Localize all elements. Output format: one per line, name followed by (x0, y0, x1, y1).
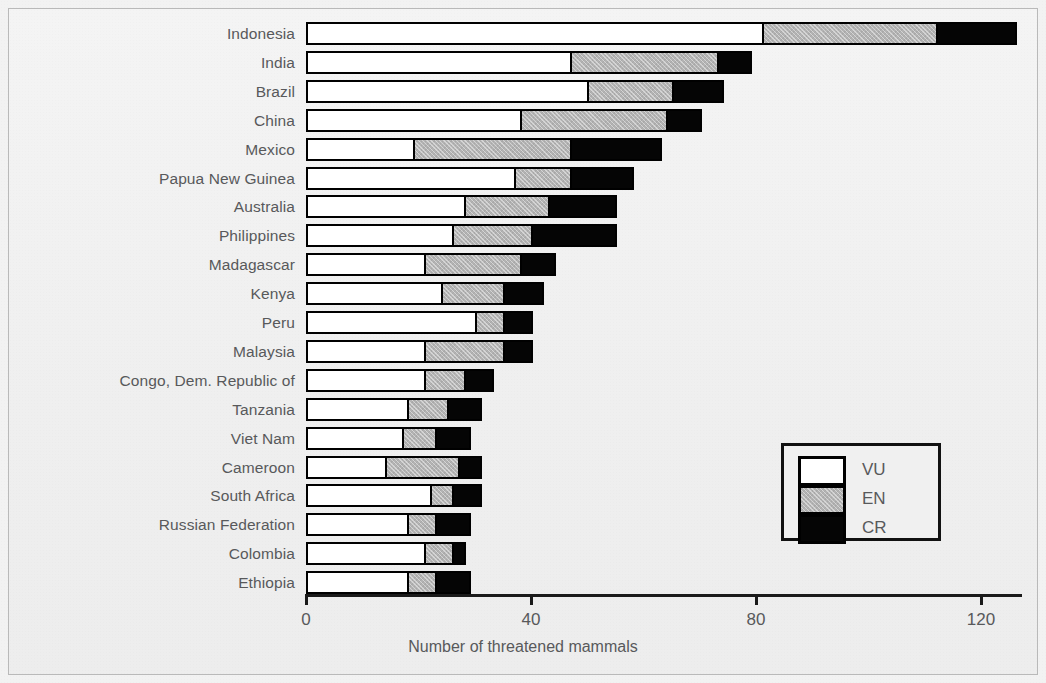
bar-row (0, 51, 1046, 74)
bar-segment-en (464, 195, 550, 218)
bar-segment-cr (503, 282, 544, 305)
bar-segment-vu (306, 80, 589, 103)
bar-row (0, 369, 1046, 392)
bar-segment-cr (570, 167, 634, 190)
bar-row (0, 340, 1046, 363)
bar-segment-cr (936, 22, 1017, 45)
bar-segment-vu (306, 571, 409, 594)
bar-segment-en (407, 571, 437, 594)
bar-segment-vu (306, 109, 522, 132)
bar-segment-en (424, 340, 505, 363)
x-axis-title: Number of threatened mammals (0, 639, 1046, 655)
bar-segment-en (452, 224, 533, 247)
bar-segment-en (475, 311, 505, 334)
bar-segment-cr (570, 138, 662, 161)
bar-segment-cr (531, 224, 617, 247)
bar-segment-vu (306, 369, 426, 392)
bar-segment-cr (672, 80, 725, 103)
legend-item: CR (798, 514, 928, 544)
bar-row (0, 542, 1046, 565)
bar-row (0, 571, 1046, 594)
bar-segment-cr (548, 195, 618, 218)
bar-segment-vu (306, 542, 426, 565)
legend-swatch-en (798, 485, 846, 515)
bar-row (0, 311, 1046, 334)
bar-row (0, 138, 1046, 161)
x-axis-tick-label: 120 (967, 611, 995, 628)
bar-segment-en (413, 138, 573, 161)
bar-segment-vu (306, 138, 415, 161)
bar-segment-en (385, 456, 460, 479)
bar-segment-en (424, 369, 465, 392)
bar-segment-vu (306, 456, 387, 479)
chart-legend: VUENCR (781, 443, 941, 541)
bar-segment-en (402, 427, 438, 450)
bar-segment-cr (464, 369, 494, 392)
bar-segment-en (424, 542, 454, 565)
legend-swatch-vu (798, 456, 846, 486)
bar-segment-vu (306, 282, 443, 305)
x-axis-tick (755, 594, 758, 605)
legend-label: VU (862, 460, 886, 480)
legend-label: CR (862, 518, 887, 538)
chart-plot-area: IndonesiaIndiaBrazilChinaMexicoPapua New… (0, 0, 1046, 683)
bar-segment-en (441, 282, 505, 305)
x-axis-tick-label: 80 (747, 611, 766, 628)
bar-row (0, 195, 1046, 218)
x-axis-tick-label: 0 (301, 611, 310, 628)
bar-segment-vu (306, 167, 516, 190)
bar-row (0, 224, 1046, 247)
bar-segment-cr (717, 51, 753, 74)
bar-segment-en (407, 398, 448, 421)
bar-segment-en (424, 253, 522, 276)
bar-segment-en (407, 513, 437, 536)
x-axis-tick (530, 594, 533, 605)
bar-segment-en (570, 51, 718, 74)
bar-row (0, 167, 1046, 190)
bar-segment-vu (306, 513, 409, 536)
bar-row (0, 253, 1046, 276)
x-axis-tick (980, 594, 983, 605)
bar-segment-en (587, 80, 673, 103)
bar-segment-en (520, 109, 668, 132)
bar-segment-vu (306, 253, 426, 276)
bar-segment-cr (452, 484, 482, 507)
bar-segment-vu (306, 195, 466, 218)
bar-segment-vu (306, 22, 764, 45)
legend-item: EN (798, 485, 928, 515)
bar-segment-cr (520, 253, 556, 276)
bar-segment-cr (503, 311, 533, 334)
bar-row (0, 398, 1046, 421)
x-axis-line (306, 594, 1022, 597)
bar-segment-cr (503, 340, 533, 363)
bar-segment-cr (458, 456, 483, 479)
bar-segment-cr (666, 109, 702, 132)
x-axis-tick-label: 40 (522, 611, 541, 628)
bar-row (0, 282, 1046, 305)
bar-segment-vu (306, 224, 454, 247)
bar-segment-vu (306, 427, 404, 450)
bar-segment-vu (306, 398, 409, 421)
legend-item: VU (798, 456, 928, 486)
bar-segment-vu (306, 484, 432, 507)
bar-row (0, 80, 1046, 103)
bar-row (0, 22, 1046, 45)
bar-segment-cr (435, 571, 471, 594)
legend-swatch-cr (798, 514, 846, 544)
x-axis-tick (305, 594, 308, 605)
legend-label: EN (862, 489, 886, 509)
bar-segment-vu (306, 340, 426, 363)
bar-segment-en (430, 484, 455, 507)
bar-segment-vu (306, 51, 572, 74)
bar-segment-cr (447, 398, 483, 421)
bar-segment-en (762, 22, 938, 45)
bar-segment-vu (306, 311, 477, 334)
bar-segment-en (514, 167, 572, 190)
bar-row (0, 109, 1046, 132)
bar-segment-cr (435, 513, 471, 536)
bar-segment-cr (435, 427, 471, 450)
